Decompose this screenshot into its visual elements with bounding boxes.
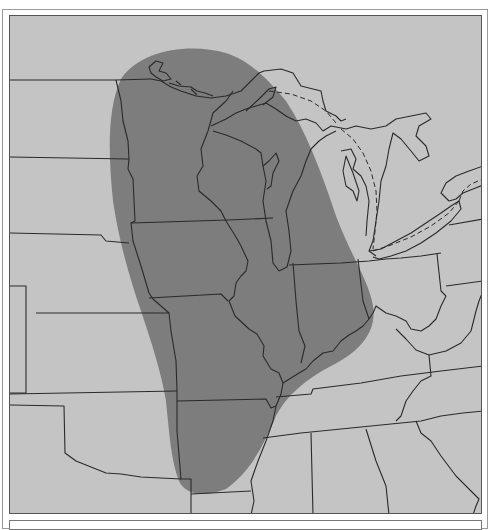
saginaw-bay	[343, 156, 359, 201]
us-midwest-map	[10, 16, 482, 514]
co-border	[10, 286, 26, 393]
ks-ok-border	[10, 391, 177, 394]
oh-pa-border	[437, 254, 446, 296]
canada-border-west	[10, 79, 151, 80]
ky-va-border	[396, 329, 431, 421]
route-lake-erie	[373, 201, 459, 251]
pa-south-border	[446, 281, 482, 286]
caption-box	[9, 520, 482, 530]
ms-al-border	[311, 433, 313, 514]
route-lake-huron	[341, 129, 377, 249]
ok-panhandle	[10, 405, 181, 479]
pa-ny-border	[449, 219, 482, 225]
sd-ne-border	[10, 233, 129, 243]
lake-erie	[369, 201, 461, 259]
map-panel	[9, 15, 482, 514]
ga-sc-border	[416, 421, 479, 514]
wv-va-border	[429, 291, 482, 355]
lake-ontario	[441, 166, 482, 201]
lake-huron-shore	[346, 113, 431, 256]
al-ga-border	[366, 429, 389, 514]
tn-south-border	[263, 411, 482, 438]
